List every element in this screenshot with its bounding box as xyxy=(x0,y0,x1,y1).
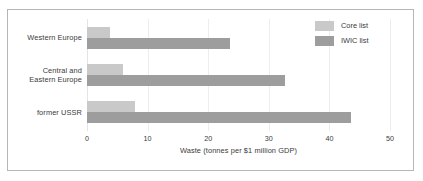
category-label: Western Europe xyxy=(0,33,82,43)
x-tick-label-10: 10 xyxy=(144,134,152,143)
bar-core-list[interactable] xyxy=(87,64,123,75)
x-axis-title: Waste (tonnes per $1 million GDP) xyxy=(87,146,390,155)
legend-swatch-iwic-list-icon xyxy=(315,36,334,46)
chart-legend: Core list IWIC list xyxy=(315,20,401,50)
x-tick-label-20: 20 xyxy=(204,134,212,143)
legend-label-iwic-list: IWIC list xyxy=(341,36,369,45)
x-tick-label-50: 50 xyxy=(386,134,394,143)
bar-iwic-list[interactable] xyxy=(87,75,285,86)
legend-item-core-list[interactable]: Core list xyxy=(315,20,401,31)
category-label: Central andEastern Europe xyxy=(0,66,82,85)
category-label-line: Western Europe xyxy=(0,33,82,43)
category-label-line: former USSR xyxy=(0,108,82,118)
bar-iwic-list[interactable] xyxy=(87,112,351,123)
x-tick-label-30: 30 xyxy=(265,134,273,143)
category-label: former USSR xyxy=(0,108,82,118)
bar-group xyxy=(87,101,390,123)
bar-group xyxy=(87,64,390,86)
chart-figure: Western EuropeCentral andEastern Europef… xyxy=(7,9,414,171)
category-label-line: Eastern Europe xyxy=(0,75,82,85)
bar-core-list[interactable] xyxy=(87,27,110,38)
legend-swatch-core-list-icon xyxy=(315,21,334,31)
x-axis: Waste (tonnes per $1 million GDP) 010203… xyxy=(87,131,390,161)
category-label-line: Central and xyxy=(0,66,82,76)
bar-iwic-list[interactable] xyxy=(87,38,230,49)
legend-item-iwic-list[interactable]: IWIC list xyxy=(315,35,401,46)
x-tick-label-40: 40 xyxy=(325,134,333,143)
x-tick-label-0: 0 xyxy=(85,134,89,143)
bar-core-list[interactable] xyxy=(87,101,135,112)
legend-label-core-list: Core list xyxy=(341,21,368,30)
